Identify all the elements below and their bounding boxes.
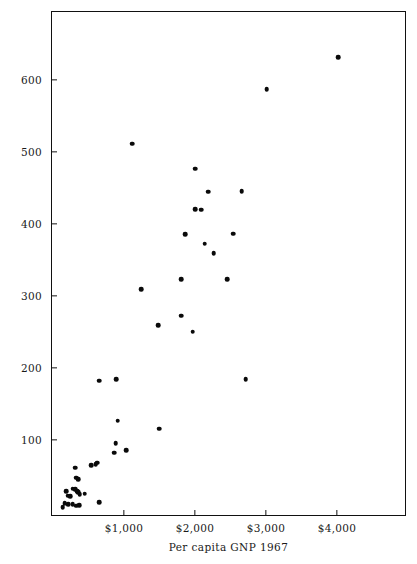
data-point (130, 141, 135, 146)
x-tick-label: $3,000 (247, 522, 286, 534)
data-point (113, 441, 118, 446)
data-point (211, 251, 216, 256)
data-point (95, 460, 100, 465)
y-tick-label: 600 (21, 74, 42, 86)
data-point (183, 232, 188, 237)
data-point (112, 450, 117, 455)
data-point (239, 189, 244, 194)
data-point (97, 378, 102, 383)
data-point (82, 491, 87, 496)
plot-frame (51, 11, 406, 516)
data-point (73, 465, 78, 470)
data-point (264, 87, 269, 92)
data-point (77, 503, 82, 508)
data-point (77, 492, 82, 497)
data-point (206, 190, 211, 195)
data-point (193, 207, 198, 212)
plot-data-area (52, 12, 405, 515)
x-tick-label: $1,000 (105, 522, 144, 534)
data-point (76, 477, 81, 482)
x-axis-label: Per capita GNP 1967 (51, 541, 406, 553)
y-tick-label: 300 (21, 290, 42, 302)
data-point (191, 329, 196, 334)
data-point (225, 277, 230, 282)
data-point (97, 500, 102, 505)
y-tick-label: 100 (21, 434, 42, 446)
data-point (156, 323, 161, 328)
data-point (68, 494, 73, 499)
data-point (193, 167, 198, 172)
data-point (116, 419, 121, 424)
y-tick-label: 400 (21, 218, 42, 230)
data-point (179, 277, 184, 282)
x-tick-label: $2,000 (176, 522, 215, 534)
data-point (139, 287, 144, 292)
data-point (203, 241, 208, 246)
data-point (114, 377, 119, 382)
data-point (231, 231, 236, 236)
scatter-plot-figure: Per capita steel consumption (kgs) 10020… (0, 0, 417, 564)
data-point (199, 208, 204, 213)
data-point (179, 313, 184, 318)
data-point (60, 505, 65, 510)
data-point (124, 448, 129, 453)
data-point (243, 377, 248, 382)
data-point (336, 55, 341, 60)
y-tick-label: 500 (21, 146, 42, 158)
x-tick-label: $4,000 (318, 522, 357, 534)
y-tick-label: 200 (21, 362, 42, 374)
data-point (157, 426, 162, 431)
